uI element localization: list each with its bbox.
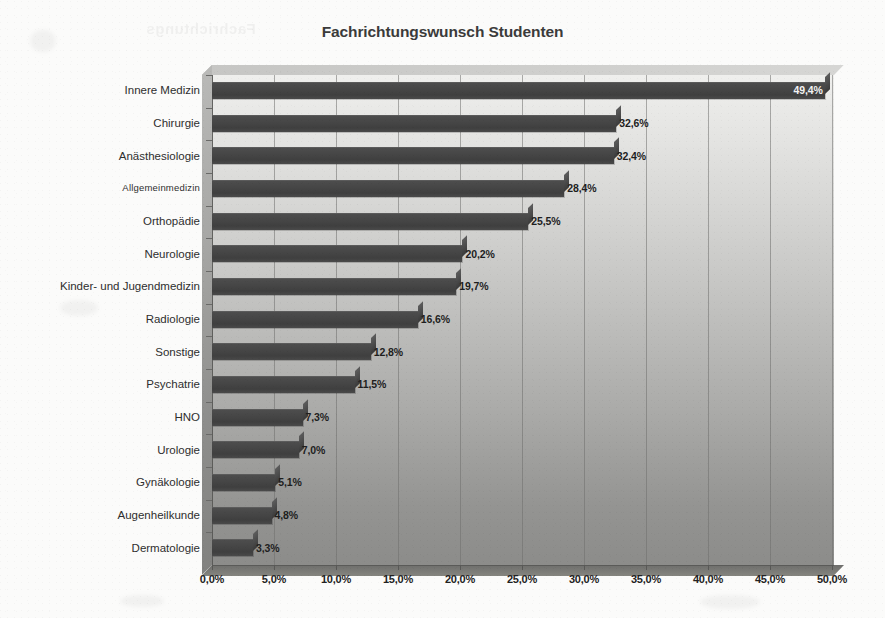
category-label: Psychatrie [146,378,200,390]
x-tick-label: 10,0% [306,573,366,585]
y-tick-mark [206,467,212,468]
category-label: Neurologie [144,248,200,260]
x-tick-label: 45,0% [740,573,800,585]
category-label: Gynäkologie [136,476,200,488]
x-tick-label: 20,0% [430,573,490,585]
y-tick-mark [206,336,212,337]
bar-value-label: 7,0% [302,444,326,456]
x-tick-mark [398,565,399,570]
x-tick-mark [212,565,213,570]
bar [212,245,462,262]
x-tick-label: 30,0% [554,573,614,585]
bar-chart: Fachrichtungswunsch Studenten 0,0%5,0%10… [0,0,885,618]
bar-value-label: 3,3% [256,542,280,554]
category-label: Urologie [157,444,200,456]
bar-value-label: 11,5% [358,378,387,390]
gridline-500 [832,75,833,565]
category-label: HNO [174,411,200,423]
y-tick-mark [206,140,212,141]
category-label: Sonstige [155,346,200,358]
y-tick-mark [206,434,212,435]
bar-value-label: 28,4% [567,182,596,194]
bar-value-label: 25,5% [531,215,560,227]
bar-value-label: 16,6% [421,313,450,325]
bar [212,180,564,197]
category-label: Chirurgie [153,117,200,129]
chart-title: Fachrichtungswunsch Studenten [0,23,885,41]
y-tick-mark [206,500,212,501]
y-tick-mark [206,108,212,109]
category-label: Orthopädie [143,215,200,227]
bar [212,213,528,230]
x-tick-label: 5,0% [244,573,304,585]
y-tick-mark [206,402,212,403]
bar-value-label: 19,7% [459,280,488,292]
bar [212,376,355,393]
category-label: Augenheilkunde [118,509,201,521]
y-tick-mark [206,238,212,239]
x-tick-mark [460,565,461,570]
bar [212,343,371,360]
x-tick-label: 50,0% [802,573,862,585]
y-tick-mark [206,206,212,207]
y-tick-mark [206,173,212,174]
bar-value-label: 32,4% [617,150,646,162]
bar-value-label: 4,8% [275,509,299,521]
plot-area [212,75,834,565]
x-tick-mark [584,565,585,570]
x-tick-mark [770,565,771,570]
y-tick-mark [206,369,212,370]
bar [212,409,303,426]
category-label: Kinder- und Jugendmedizin [60,280,200,292]
y-tick-mark [206,532,212,533]
bar-value-label: 20,2% [465,248,494,260]
x-tick-mark [832,565,833,570]
x-tick-mark [274,565,275,570]
bar [212,311,418,328]
bar-value-label: 12,8% [374,346,403,358]
bar-value-label: 49,4% [794,84,823,96]
category-label: Dermatologie [132,542,200,554]
x-tick-mark [336,565,337,570]
bar [212,507,272,524]
bar-value-label: 5,1% [278,476,302,488]
plot-side-wall [202,65,212,575]
y-tick-mark [206,75,212,76]
bar [212,474,275,491]
bar [212,147,614,164]
gridline-400 [708,75,709,565]
bar [212,278,456,295]
bar [212,539,253,556]
bar [212,82,825,99]
gridline-350 [646,75,647,565]
x-axis-line [212,565,834,566]
bar-value-label: 7,3% [306,411,330,423]
bar [212,115,616,132]
bar-value-label: 32,6% [619,117,648,129]
y-tick-mark [206,304,212,305]
x-tick-label: 0,0% [182,573,242,585]
category-label: Allgemeinmedizin [122,182,200,194]
bar [212,441,299,458]
category-label: Innere Medizin [125,84,200,96]
x-tick-mark [708,565,709,570]
y-tick-mark [206,271,212,272]
x-tick-label: 25,0% [492,573,552,585]
x-tick-mark [522,565,523,570]
x-tick-label: 15,0% [368,573,428,585]
category-label: Anästhesiologie [119,150,200,162]
x-tick-label: 40,0% [678,573,738,585]
x-tick-label: 35,0% [616,573,676,585]
plot-top-cap [202,65,844,75]
category-label: Radiologie [146,313,200,325]
x-tick-mark [646,565,647,570]
gridline-450 [770,75,771,565]
